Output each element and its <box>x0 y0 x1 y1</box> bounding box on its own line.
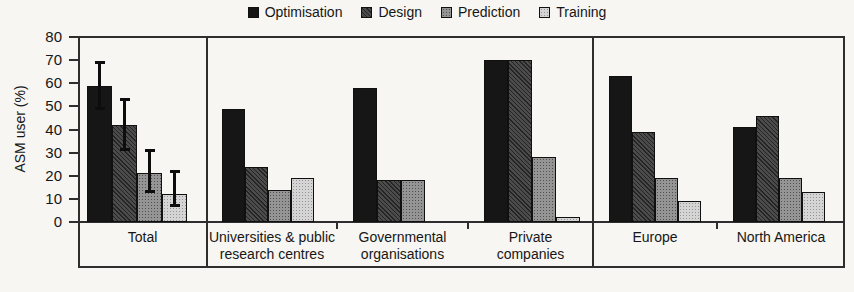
bar-optimisation-5 <box>733 127 756 222</box>
bar-optimisation-4 <box>609 76 632 222</box>
y-tick-mark <box>69 152 78 154</box>
category-label-line: North America <box>686 229 854 246</box>
y-tick-label: 40 <box>0 121 62 138</box>
category-label-5: North America <box>686 229 854 246</box>
category-tick-mark <box>467 222 469 229</box>
bar-prediction-2 <box>401 180 425 222</box>
bar-optimisation-3 <box>484 60 508 222</box>
error-bar-cap-top <box>170 170 180 173</box>
bar-training-5 <box>802 192 825 222</box>
y-tick-mark <box>69 59 78 61</box>
bar-training-3 <box>556 217 580 222</box>
bar-training-4 <box>678 201 701 222</box>
y-tick-mark <box>69 129 78 131</box>
error-bar-cap-top <box>120 98 130 101</box>
error-bar-cap-bottom <box>145 190 155 193</box>
bar-design-3 <box>508 60 532 222</box>
error-bar-cap-bottom <box>95 107 105 110</box>
y-tick-label: 10 <box>0 190 62 207</box>
error-bar-cap-bottom <box>170 204 180 207</box>
bar-design-4 <box>632 132 655 222</box>
error-bar-line <box>173 171 176 206</box>
y-tick-mark <box>69 175 78 177</box>
y-tick-label: 30 <box>0 144 62 161</box>
y-tick-label: 20 <box>0 167 62 184</box>
plot-area: ASM user (%) 01020304050607080TotalUnive… <box>0 0 854 292</box>
y-tick-mark <box>69 36 78 38</box>
y-tick-label: 70 <box>0 51 62 68</box>
y-tick-mark <box>69 221 78 223</box>
error-bar-cap-top <box>145 149 155 152</box>
y-tick-mark <box>69 82 78 84</box>
y-tick-label: 60 <box>0 74 62 91</box>
error-bar-line <box>123 99 126 150</box>
bar-design-5 <box>756 116 779 222</box>
category-label-line: companies <box>436 246 626 263</box>
bar-optimisation-1 <box>222 109 245 222</box>
category-tick-mark <box>336 222 338 229</box>
x-axis-line <box>78 221 845 223</box>
bar-prediction-3 <box>532 157 556 222</box>
bar-prediction-5 <box>779 178 802 222</box>
y-tick-mark <box>69 105 78 107</box>
y-tick-label: 80 <box>0 28 62 45</box>
y-tick-label: 0 <box>0 213 62 230</box>
error-bar-cap-top <box>95 61 105 64</box>
y-tick-mark <box>69 198 78 200</box>
bar-design-1 <box>245 167 268 223</box>
bar-design-2 <box>377 180 401 222</box>
bar-optimisation-2 <box>353 88 377 222</box>
error-bar-line <box>98 62 101 108</box>
category-tick-mark <box>716 222 718 229</box>
bar-training-1 <box>291 178 314 222</box>
bar-prediction-1 <box>268 190 291 222</box>
asm-grouped-bar-chart: OptimisationDesignPredictionTraining ASM… <box>0 0 854 292</box>
error-bar-cap-bottom <box>120 148 130 151</box>
error-bar-line <box>148 150 151 192</box>
y-tick-label: 50 <box>0 97 62 114</box>
bar-prediction-4 <box>655 178 678 222</box>
